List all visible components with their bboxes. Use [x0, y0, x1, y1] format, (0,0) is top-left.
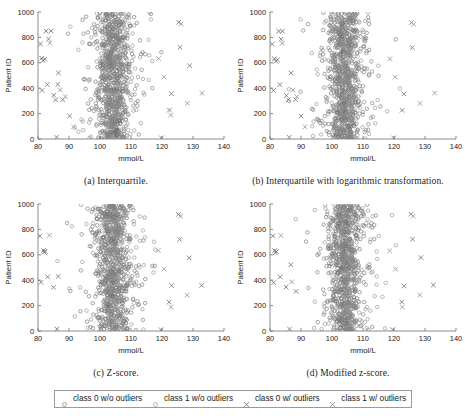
y-axis-label: Patient ID: [236, 58, 245, 93]
x-axis-label: mmol/L: [350, 346, 376, 355]
svg-text:90: 90: [297, 142, 305, 151]
subplot-a: 809010011012013014002004006008001000mmol…: [0, 2, 232, 194]
svg-text:80: 80: [34, 334, 42, 343]
svg-text:80: 80: [266, 334, 274, 343]
legend-label: class 0 w/o outliers: [73, 395, 142, 403]
legend-label: class 0 w/ outliers: [255, 395, 320, 403]
x-axis-label: mmol/L: [118, 346, 144, 355]
x-axis-label: mmol/L: [350, 154, 376, 163]
scatter-plot-svg: 809010011012013014002004006008001000mmol…: [0, 2, 232, 177]
svg-text:130: 130: [419, 142, 431, 151]
plot-area-b[interactable]: 809010011012013014002004006008001000mmol…: [232, 2, 464, 177]
svg-text:140: 140: [218, 334, 230, 343]
legend-marker-circle-icon: [60, 395, 69, 404]
subplot-d: 809010011012013014002004006008001000mmol…: [232, 194, 464, 386]
svg-text:1000: 1000: [250, 200, 266, 209]
legend-marker-cross-icon: [328, 395, 337, 404]
svg-text:400: 400: [22, 276, 34, 285]
svg-text:200: 200: [254, 301, 266, 310]
legend-entry-class-0-wo-outliers[interactable]: class 0 w/o outliers: [60, 395, 142, 404]
svg-text:800: 800: [22, 225, 34, 234]
x-axis-label: mmol/L: [118, 154, 144, 163]
y-axis-label: Patient ID: [4, 250, 13, 285]
svg-text:140: 140: [450, 142, 462, 151]
scatter-plot-svg: 809010011012013014002004006008001000mmol…: [0, 194, 232, 369]
svg-text:90: 90: [65, 334, 73, 343]
svg-text:1000: 1000: [250, 8, 266, 17]
figure-container: 809010011012013014002004006008001000mmol…: [0, 0, 465, 420]
legend-entry-class-1-wo-outliers[interactable]: class 1 w/o outliers: [151, 395, 233, 404]
svg-text:120: 120: [388, 142, 400, 151]
svg-text:130: 130: [187, 334, 199, 343]
svg-text:600: 600: [22, 58, 34, 67]
plot-area-a[interactable]: 809010011012013014002004006008001000mmol…: [0, 2, 232, 177]
svg-text:120: 120: [156, 142, 168, 151]
svg-text:140: 140: [450, 334, 462, 343]
subplot-caption-c: (c) Z-score.: [0, 368, 232, 378]
svg-text:90: 90: [65, 142, 73, 151]
subplot-caption-a: (a) Interquartile.: [0, 176, 232, 186]
svg-text:800: 800: [254, 225, 266, 234]
svg-text:0: 0: [262, 135, 266, 144]
scatter-plot-svg: 809010011012013014002004006008001000mmol…: [232, 2, 464, 177]
scatter-plot-svg: 809010011012013014002004006008001000mmol…: [232, 194, 464, 369]
subplot-caption-b: (b) Interquartile with logarithmic trans…: [222, 176, 465, 186]
legend-label: class 1 w/o outliers: [164, 395, 233, 403]
legend-entry-class-1-w-outliers[interactable]: class 1 w/ outliers: [328, 395, 406, 404]
y-axis-label: Patient ID: [236, 250, 245, 285]
svg-text:0: 0: [262, 327, 266, 336]
svg-text:800: 800: [22, 33, 34, 42]
legend-marker-cross-icon: [242, 395, 251, 404]
y-axis-label: Patient ID: [4, 58, 13, 93]
legend-marker-circle-icon: [151, 395, 160, 404]
svg-text:110: 110: [125, 334, 137, 343]
svg-text:600: 600: [22, 250, 34, 259]
svg-text:600: 600: [254, 58, 266, 67]
plot-area-d[interactable]: 809010011012013014002004006008001000mmol…: [232, 194, 464, 369]
svg-text:110: 110: [357, 142, 369, 151]
svg-text:110: 110: [357, 334, 369, 343]
svg-text:120: 120: [388, 334, 400, 343]
subplot-c: 809010011012013014002004006008001000mmol…: [0, 194, 232, 386]
svg-text:80: 80: [34, 142, 42, 151]
svg-text:100: 100: [326, 334, 338, 343]
svg-text:200: 200: [254, 109, 266, 118]
svg-text:400: 400: [254, 276, 266, 285]
svg-text:100: 100: [94, 334, 106, 343]
svg-text:0: 0: [30, 135, 34, 144]
subplot-b: 809010011012013014002004006008001000mmol…: [232, 2, 464, 194]
svg-text:200: 200: [22, 109, 34, 118]
legend-label: class 1 w/ outliers: [341, 395, 406, 403]
svg-text:100: 100: [94, 142, 106, 151]
svg-text:140: 140: [218, 142, 230, 151]
plot-area-c[interactable]: 809010011012013014002004006008001000mmol…: [0, 194, 232, 369]
svg-text:130: 130: [419, 334, 431, 343]
svg-text:130: 130: [187, 142, 199, 151]
svg-text:120: 120: [156, 334, 168, 343]
figure-legend: class 0 w/o outliers class 1 w/o outlier…: [54, 390, 412, 408]
svg-text:400: 400: [254, 84, 266, 93]
svg-text:200: 200: [22, 301, 34, 310]
legend-entry-class-0-w-outliers[interactable]: class 0 w/ outliers: [242, 395, 320, 404]
svg-text:110: 110: [125, 142, 137, 151]
svg-text:400: 400: [22, 84, 34, 93]
svg-text:1000: 1000: [18, 200, 34, 209]
svg-text:1000: 1000: [18, 8, 34, 17]
svg-text:80: 80: [266, 142, 274, 151]
svg-text:100: 100: [326, 142, 338, 151]
svg-text:800: 800: [254, 33, 266, 42]
svg-text:90: 90: [297, 334, 305, 343]
subplot-caption-d: (d) Modified z-score.: [232, 368, 464, 378]
svg-text:600: 600: [254, 250, 266, 259]
svg-text:0: 0: [30, 327, 34, 336]
